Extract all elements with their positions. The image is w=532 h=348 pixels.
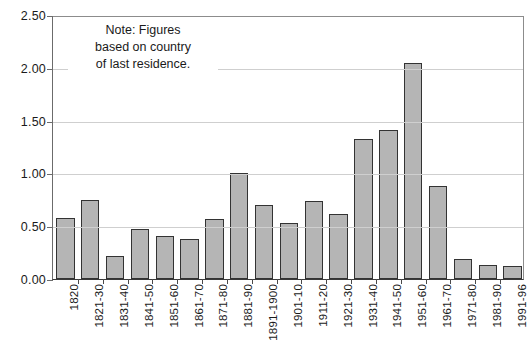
bar-chart: 0.000.501.001.502.002.50 Note: Figures b… [0,0,532,348]
x-tick-label: 1871-80 [218,284,230,328]
x-tick-label: 1901-10 [293,284,305,328]
x-tick-label: 1831-40 [119,284,131,328]
x-tick-label: 1861-70 [194,284,206,328]
x-tick-label: 1821-30 [94,284,106,328]
bar [305,201,323,279]
x-tick-label: 1951-60 [417,284,429,328]
bar [180,239,198,279]
x-tick-label: 1931-40 [368,284,380,328]
bar [106,256,124,279]
bar [429,186,447,279]
y-axis: 0.000.501.001.502.002.50 [0,0,46,290]
gridline [53,16,523,17]
x-tick-label: 1891-1900 [268,284,280,341]
bar [479,265,497,279]
note-line-2: based on country [68,39,218,56]
y-tick-label: 0.00 [0,274,46,287]
gridline [53,174,523,175]
x-tick-label: 1961-70 [442,284,454,328]
y-tick-label: 1.00 [0,168,46,181]
note-line-1: Note: Figures [68,22,218,39]
bar [255,205,273,279]
x-tick-label: 1881-90 [243,284,255,328]
gridline [53,122,523,123]
y-tick-label: 2.50 [0,10,46,23]
chart-note: Note: Figures based on country of last r… [68,22,218,73]
y-tick-label: 2.00 [0,63,46,76]
bar [81,200,99,279]
bar [454,259,472,279]
x-tick-label: 1971-80 [467,284,479,328]
x-tick-label: 1820 [69,284,81,310]
gridline [53,227,523,228]
y-tick-label: 1.50 [0,115,46,128]
y-tick-mark [47,174,53,175]
bar [503,266,521,279]
y-tick-mark [47,69,53,70]
bar [131,229,149,279]
bar [280,223,298,279]
x-tick-label: 1941-50 [392,284,404,328]
x-tick-label: 1851-60 [169,284,181,328]
x-axis: 18201821-301831-401841-501851-601861-701… [52,280,524,348]
x-tick-label: 1841-50 [144,284,156,328]
bar [156,236,174,279]
bar [379,130,397,279]
note-line-3: of last residence. [68,56,218,73]
x-tick-label: 1991-96 [517,284,529,328]
y-tick-mark [47,16,53,17]
y-tick-mark [47,227,53,228]
x-tick-label: 1981-90 [492,284,504,328]
bar [354,139,372,279]
x-tick-label: 1911-20 [318,284,330,327]
y-tick-label: 0.50 [0,221,46,234]
x-tick-label: 1921-30 [343,284,355,328]
y-tick-mark [47,122,53,123]
bar [404,63,422,279]
bar [329,214,347,279]
